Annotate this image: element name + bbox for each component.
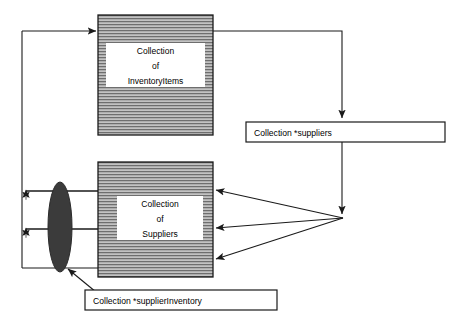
- inventory-items-label-line-3: InventoryItems: [128, 76, 184, 86]
- edge-supplier-inventory-callout: [68, 269, 96, 292]
- suppliers-pointer-label: Collection *suppliers: [254, 128, 332, 138]
- supplier-inventory-pointer-box: Collection *supplierInventory: [85, 290, 277, 310]
- supplier-inventory-pointer-label: Collection *supplierInventory: [93, 296, 203, 306]
- inventory-items-box: Collection of InventoryItems: [98, 15, 213, 135]
- diagram-svg: Collection of InventoryItems Collection …: [0, 0, 454, 325]
- diagram-canvas: Collection of InventoryItems Collection …: [0, 0, 454, 325]
- fan-out-edges: [216, 190, 343, 259]
- edge-inventory-to-suppliers-pointer: [213, 31, 342, 118]
- suppliers-pointer-box: Collection *suppliers: [246, 122, 445, 142]
- edge-hub-to-suppliers-upper: [216, 190, 343, 218]
- suppliers-label-line-2: of: [156, 214, 164, 224]
- edge-hub-to-suppliers-middle: [216, 218, 343, 228]
- inventory-items-label-line-2: of: [152, 61, 160, 71]
- edge-hub-to-suppliers-lower: [216, 218, 343, 259]
- suppliers-box: Collection of Suppliers: [98, 162, 213, 277]
- suppliers-label-line-3: Suppliers: [142, 229, 177, 239]
- suppliers-label-line-1: Collection: [141, 199, 179, 209]
- supplier-inventory-ellipse: [48, 182, 72, 272]
- inventory-items-label-line-1: Collection: [137, 46, 175, 56]
